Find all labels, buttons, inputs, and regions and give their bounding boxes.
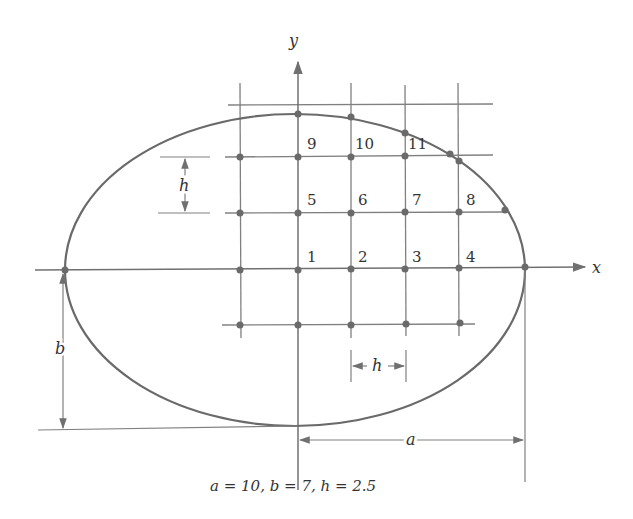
- node-label-7: 7: [412, 191, 422, 209]
- dimension-lines: [38, 157, 525, 482]
- node-label-2: 2: [358, 248, 368, 266]
- ellipse-finite-difference-diagram: x y b a h h: [0, 0, 633, 519]
- node-label-6: 6: [358, 191, 368, 209]
- a-dimension-label: a: [406, 430, 416, 449]
- node-label-9: 9: [307, 135, 317, 153]
- y-axis-label: y: [288, 31, 299, 50]
- node-label-1: 1: [307, 248, 317, 266]
- node-label-3: 3: [412, 248, 422, 266]
- node-label-8: 8: [466, 191, 476, 209]
- b-dimension-label: b: [55, 339, 65, 358]
- node-label-11: 11: [408, 135, 427, 153]
- x-axis-label: x: [592, 258, 601, 277]
- caption: a = 10, b = 7, h = 2.5: [210, 477, 376, 495]
- h-horizontal-label: h: [372, 356, 382, 375]
- node-label-10: 10: [355, 135, 374, 153]
- node-label-5: 5: [307, 191, 317, 209]
- x-axis: [35, 267, 585, 270]
- node-label-4: 4: [466, 248, 476, 266]
- h-vertical-label: h: [179, 176, 189, 195]
